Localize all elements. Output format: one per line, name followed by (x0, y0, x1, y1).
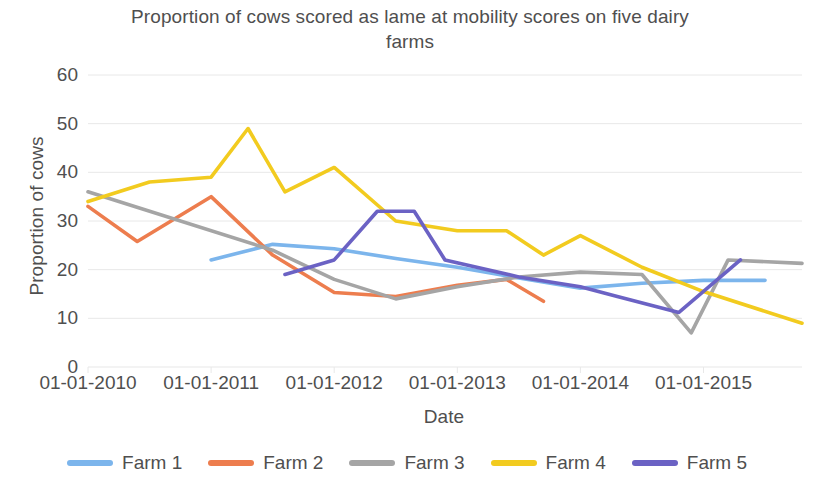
y-tick-label: 50 (30, 113, 78, 135)
legend-item-farm-1[interactable]: Farm 1 (67, 452, 182, 474)
series-line-farm-3 (88, 192, 802, 333)
line-chart: Proportion of cows scored as lame at mob… (0, 0, 814, 479)
legend-swatch-icon (632, 460, 678, 466)
x-tick-label: 01-01-2011 (163, 372, 259, 394)
x-tick-label: 01-01-2013 (409, 372, 506, 394)
y-tick-label: 40 (30, 161, 78, 183)
legend-swatch-icon (208, 460, 254, 466)
legend-item-farm-2[interactable]: Farm 2 (208, 452, 323, 474)
y-tick-label: 10 (30, 307, 78, 329)
y-tick-label: 30 (30, 210, 78, 232)
y-tick-label: 20 (30, 259, 78, 281)
x-tick-label: 01-01-2012 (286, 372, 383, 394)
legend-item-farm-5[interactable]: Farm 5 (632, 452, 747, 474)
legend-item-farm-4[interactable]: Farm 4 (491, 452, 606, 474)
legend-label: Farm 5 (687, 452, 747, 474)
y-tick-label: 60 (30, 64, 78, 86)
series-line-farm-5 (285, 211, 740, 312)
y-axis-tick-labels: 0102030405060 (0, 0, 78, 479)
legend-swatch-icon (349, 460, 395, 466)
legend-swatch-icon (491, 460, 537, 466)
x-tick-label: 01-01-2014 (532, 372, 629, 394)
x-tick-label: 01-01-2010 (39, 372, 136, 394)
data-series-group (88, 129, 802, 333)
legend-label: Farm 4 (546, 452, 606, 474)
x-axis-title: Date (88, 406, 800, 428)
legend-label: Farm 1 (122, 452, 182, 474)
legend-label: Farm 3 (404, 452, 464, 474)
legend-swatch-icon (67, 460, 113, 466)
x-tick-label: 01-01-2015 (655, 372, 752, 394)
chart-legend: Farm 1Farm 2Farm 3Farm 4Farm 5 (0, 446, 814, 479)
legend-item-farm-3[interactable]: Farm 3 (349, 452, 464, 474)
legend-label: Farm 2 (263, 452, 323, 474)
